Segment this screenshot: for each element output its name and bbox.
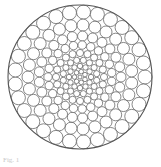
packed-circle bbox=[60, 71, 66, 77]
packed-circle bbox=[88, 111, 98, 121]
packed-circle bbox=[76, 49, 83, 56]
packed-circle bbox=[66, 74, 71, 79]
packed-circle bbox=[123, 89, 135, 101]
packed-circle bbox=[80, 57, 86, 63]
packed-circle bbox=[123, 53, 135, 65]
packed-circle bbox=[78, 31, 88, 41]
circle-packing-diagram bbox=[0, 0, 161, 155]
packed-circle bbox=[77, 63, 82, 68]
packed-circle bbox=[69, 41, 77, 49]
packed-circle bbox=[99, 81, 106, 88]
packed-circles bbox=[8, 5, 152, 149]
packed-circle bbox=[42, 96, 52, 106]
packed-circle bbox=[34, 77, 44, 87]
packed-circle bbox=[100, 116, 112, 128]
packed-circle bbox=[136, 56, 150, 70]
packed-circle bbox=[94, 71, 100, 77]
packed-circle bbox=[58, 109, 68, 119]
packed-circle bbox=[45, 81, 53, 89]
packed-circle bbox=[78, 113, 88, 123]
packed-circle bbox=[23, 83, 35, 95]
packed-circle bbox=[94, 47, 102, 55]
packed-circle bbox=[8, 63, 22, 77]
packed-circle bbox=[84, 96, 91, 103]
packed-circle bbox=[115, 62, 125, 72]
packed-circle bbox=[60, 77, 66, 83]
packed-circle bbox=[94, 99, 102, 107]
packed-circle bbox=[116, 72, 126, 82]
packed-circle bbox=[83, 72, 88, 77]
packed-circle bbox=[62, 134, 76, 148]
packed-circle bbox=[97, 37, 107, 47]
packed-circle bbox=[11, 49, 25, 63]
packed-circle bbox=[97, 107, 107, 117]
packed-circle bbox=[68, 80, 73, 85]
packed-circle bbox=[74, 79, 79, 84]
packed-circle bbox=[105, 86, 113, 94]
packed-circle bbox=[54, 66, 61, 73]
packed-circle bbox=[126, 65, 138, 77]
packed-circle bbox=[53, 119, 65, 131]
packed-circle bbox=[69, 104, 77, 112]
packed-circle bbox=[54, 49, 62, 57]
packed-circle bbox=[23, 59, 35, 71]
packed-circle bbox=[111, 92, 121, 102]
packed-circle bbox=[52, 73, 59, 80]
packed-circle bbox=[49, 10, 63, 24]
packed-circle bbox=[8, 77, 22, 91]
packed-circle bbox=[74, 70, 79, 75]
packed-circle bbox=[89, 121, 101, 133]
packed-circle bbox=[88, 74, 93, 79]
packed-circle bbox=[72, 65, 77, 70]
packed-circle bbox=[69, 96, 76, 103]
packed-circle bbox=[78, 75, 82, 79]
packed-circle bbox=[115, 82, 125, 92]
packed-circle bbox=[91, 93, 98, 100]
packed-circle bbox=[37, 87, 47, 97]
packed-circle bbox=[101, 53, 109, 61]
packed-circle bbox=[105, 100, 115, 110]
packed-circle bbox=[77, 135, 91, 149]
packed-circle bbox=[77, 85, 82, 90]
packed-circle bbox=[117, 42, 129, 54]
packed-circle bbox=[61, 44, 69, 52]
packed-circle bbox=[90, 7, 104, 21]
packed-circle bbox=[105, 60, 113, 68]
packed-circle bbox=[22, 71, 34, 83]
packed-circle bbox=[77, 123, 89, 135]
packed-circle bbox=[83, 84, 88, 89]
packed-circle bbox=[62, 54, 69, 61]
packed-circle bbox=[49, 130, 63, 144]
packed-circle bbox=[61, 101, 69, 109]
packed-circle bbox=[87, 103, 95, 111]
packed-circle bbox=[74, 91, 80, 97]
packed-circle bbox=[67, 32, 77, 42]
packed-circle bbox=[138, 70, 152, 84]
packed-circle bbox=[101, 93, 109, 101]
packed-circle bbox=[105, 44, 115, 54]
packed-circle bbox=[65, 20, 77, 32]
packed-circle bbox=[44, 73, 52, 81]
packed-circle bbox=[77, 19, 89, 31]
packed-circle bbox=[78, 105, 86, 113]
packed-circle bbox=[89, 21, 101, 33]
packed-circle bbox=[69, 51, 76, 58]
packed-circle bbox=[65, 122, 77, 134]
packed-circle bbox=[11, 91, 25, 105]
packed-circle bbox=[87, 69, 92, 74]
packed-circle bbox=[48, 56, 56, 64]
packed-circle bbox=[37, 57, 47, 67]
packed-circle bbox=[99, 66, 106, 73]
packed-circle bbox=[96, 59, 103, 66]
packed-circle bbox=[74, 57, 80, 63]
packed-circle bbox=[43, 29, 55, 41]
packed-circle bbox=[88, 33, 98, 43]
packed-circle bbox=[49, 40, 59, 50]
packed-circle bbox=[28, 48, 40, 60]
packed-circle bbox=[94, 77, 100, 83]
packed-circle bbox=[34, 104, 46, 116]
packed-circle bbox=[78, 41, 86, 49]
packed-circle bbox=[87, 43, 95, 51]
packed-circle bbox=[90, 133, 104, 147]
packed-circle bbox=[100, 73, 107, 80]
